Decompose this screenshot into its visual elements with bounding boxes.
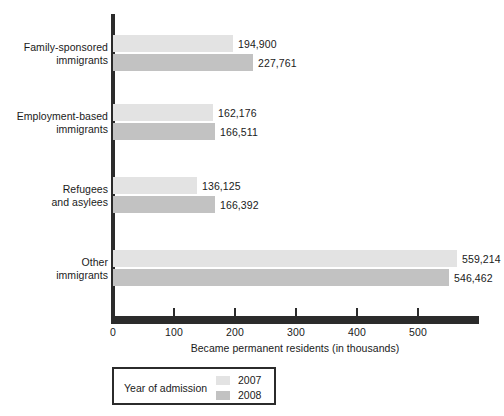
x-axis-tick-label-400: 400 — [348, 326, 366, 338]
bar-chart: 0 100 200 300 400 500 Family-sponsored i… — [0, 0, 504, 416]
x-axis-tick-0 — [112, 308, 114, 316]
x-axis-tick-200 — [234, 308, 236, 316]
x-axis-tick-label-500: 500 — [409, 326, 427, 338]
legend-swatch-2008-icon — [216, 391, 230, 400]
bar-value-employment-based-2007: 162,176 — [218, 107, 257, 119]
x-axis-line — [111, 316, 479, 324]
bar-other-immigrants-2007 — [113, 250, 457, 267]
legend-label-2007: 2007 — [238, 374, 261, 386]
category-label-other-immigrants: Other immigrants — [0, 256, 108, 281]
legend-swatch-2007-icon — [216, 376, 230, 385]
bar-refugees-asylees-2007 — [113, 177, 197, 194]
bar-refugees-asylees-2008 — [113, 196, 215, 213]
bar-value-refugees-asylees-2008: 166,392 — [220, 199, 259, 211]
bar-value-employment-based-2008: 166,511 — [220, 126, 258, 138]
bar-other-immigrants-2008 — [113, 269, 449, 286]
bar-value-refugees-asylees-2007: 136,125 — [202, 180, 241, 192]
bar-employment-based-2007 — [113, 104, 213, 121]
x-axis-tick-400 — [356, 308, 358, 316]
x-axis-tick-label-100: 100 — [165, 326, 183, 338]
legend-title: Year of admission — [124, 382, 207, 394]
x-axis-tick-label-0: 0 — [110, 326, 116, 338]
x-axis-tick-100 — [173, 308, 175, 316]
category-label-family-sponsored: Family-sponsored immigrants — [0, 41, 108, 66]
bar-employment-based-2008 — [113, 123, 215, 140]
bar-value-other-immigrants-2007: 559,214 — [462, 253, 501, 265]
x-axis-tick-label-300: 300 — [287, 326, 305, 338]
bar-value-family-sponsored-2007: 194,900 — [238, 38, 277, 50]
bar-family-sponsored-2008 — [113, 54, 253, 71]
bar-value-family-sponsored-2008: 227,761 — [258, 57, 297, 69]
legend: Year of admission 2007 2008 — [112, 367, 276, 405]
x-axis-tick-500 — [417, 308, 419, 316]
category-label-refugees-asylees: Refugees and asylees — [0, 183, 108, 208]
legend-label-2008: 2008 — [238, 389, 261, 401]
x-axis-title: Became permanent residents (in thousands… — [111, 342, 479, 354]
x-axis-tick-label-200: 200 — [226, 326, 244, 338]
category-label-employment-based: Employment-based immigrants — [0, 110, 108, 135]
bar-value-other-immigrants-2008: 546,462 — [454, 272, 493, 284]
x-axis-tick-300 — [295, 308, 297, 316]
bar-family-sponsored-2007 — [113, 35, 233, 52]
